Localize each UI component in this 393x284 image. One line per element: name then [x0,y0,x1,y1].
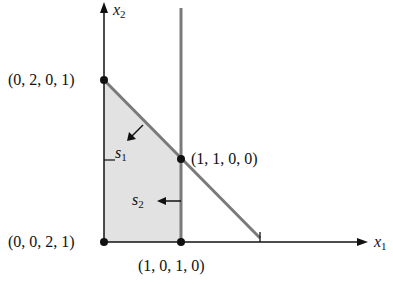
vertex-top [100,76,108,84]
slack-s1-label: s1 [115,145,127,163]
vertex-origin-label: (0, 0, 2, 1) [8,234,75,250]
y-axis-label: x2 [113,2,126,20]
vertex-bottom-right [177,238,185,246]
slack-s2-label: s2 [132,192,144,210]
vertex-corner-label: (1, 1, 0, 0) [191,151,258,167]
x-axis-arrow-icon [357,238,368,246]
y-axis-arrow-icon [100,2,108,13]
vertex-top-label: (0, 2, 0, 1) [8,72,75,88]
vertex-bottom-right-label: (1, 0, 1, 0) [138,258,205,274]
x-axis-label: x1 [374,234,387,252]
vertex-origin [100,238,108,246]
vertex-corner [177,155,185,163]
